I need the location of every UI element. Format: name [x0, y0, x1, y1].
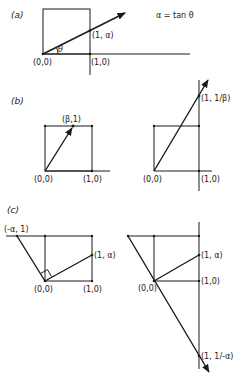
unit-x-dot	[198, 170, 200, 172]
corner-dot	[44, 235, 46, 237]
panel-c: (c) (-α, 1) (1, α) (0,0) (1,0)	[4, 205, 233, 372]
alpha-line	[154, 255, 199, 281]
unit-x-dot	[89, 53, 92, 56]
origin-label: (0,0)	[138, 284, 157, 293]
alpha-label: (1, α)	[201, 251, 223, 260]
theta-label: θ	[58, 45, 63, 54]
alpha-line	[45, 255, 92, 281]
panel-b: (b) (β,1) (0,0) (1,0) (1, 1/β) (0,0)	[11, 80, 230, 191]
panel-a-label: (a)	[11, 10, 24, 20]
corner-dot	[153, 235, 155, 237]
alpha-label: (1, α)	[94, 251, 116, 260]
equation-label: α = tan θ	[156, 11, 194, 20]
panel-b-left: (β,1) (0,0) (1,0)	[34, 115, 110, 184]
intersect-dot	[198, 95, 201, 98]
unit-x-label: (1,0)	[201, 175, 220, 184]
unit-x-dot	[91, 280, 93, 282]
origin-dot	[153, 280, 156, 283]
corner-dot	[91, 125, 93, 127]
intersect-label: (1, α)	[92, 31, 114, 40]
intersect-label: (1, 1/β)	[201, 94, 230, 103]
panel-c-label: (c)	[7, 205, 19, 215]
inv-alpha-dot	[198, 355, 201, 358]
origin-label: (0,0)	[33, 58, 52, 67]
origin-dot	[44, 280, 47, 283]
panel-a: (a) θ (0,0) (1,0) (1, α) α = tan θ	[11, 9, 194, 75]
neg-alpha-label: (-α, 1)	[4, 225, 29, 234]
beta-dot	[72, 125, 75, 128]
alpha-dot	[198, 254, 201, 257]
beta-label: (β,1)	[62, 115, 81, 124]
unit-x-label: (1,0)	[83, 175, 102, 184]
origin-label: (0,0)	[143, 175, 162, 184]
unit-x-dot	[198, 280, 200, 282]
panel-c-right: (1, α) (1,0) (0,0) (1, 1/-α)	[127, 222, 234, 372]
corner-dot	[91, 235, 93, 237]
corner-dot	[127, 235, 129, 237]
alpha-dot	[91, 254, 94, 257]
inv-alpha-label: (1, 1/-α)	[201, 352, 233, 361]
origin-dot	[42, 53, 45, 56]
panel-c-left: (-α, 1) (1, α) (0,0) (1,0)	[4, 225, 116, 294]
neg-alpha-line	[17, 236, 45, 281]
corner-dot	[44, 125, 46, 127]
origin-label: (0,0)	[34, 175, 53, 184]
vector-arrow	[45, 128, 72, 171]
panel-b-label: (b)	[11, 96, 24, 106]
unit-square	[43, 9, 90, 54]
unit-x-label: (1,0)	[91, 58, 110, 67]
neg-alpha-dot	[16, 235, 18, 237]
corner-dot	[153, 125, 155, 127]
unit-x-label: (1,0)	[83, 285, 102, 294]
diagram-canvas: (a) θ (0,0) (1,0) (1, α) α = tan θ (b)	[0, 0, 245, 376]
intersect-dot	[89, 29, 92, 32]
origin-label: (0,0)	[34, 285, 53, 294]
unit-x-label: (1,0)	[201, 277, 220, 286]
panel-b-right: (1, 1/β) (0,0) (1,0)	[143, 80, 230, 191]
unit-x-dot	[91, 170, 93, 172]
corner-dot	[198, 235, 200, 237]
corner-dot	[198, 125, 200, 127]
